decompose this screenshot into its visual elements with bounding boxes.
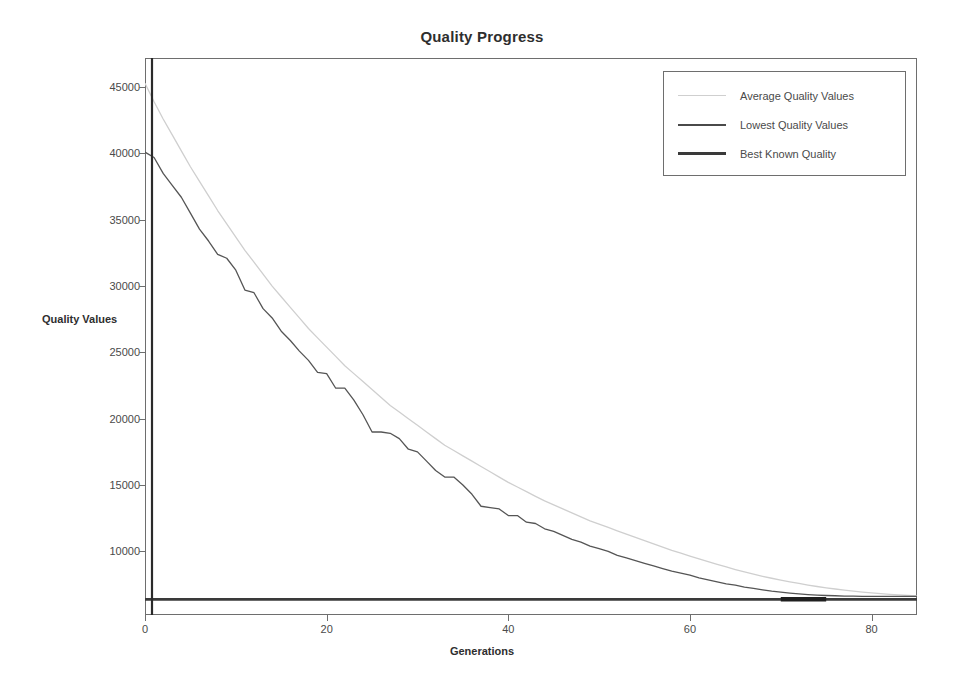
legend-swatch-best-known <box>678 152 726 155</box>
x-tick-mark <box>690 615 691 621</box>
x-tick-mark <box>145 615 146 621</box>
chart-figure: Quality Progress Quality Values Generati… <box>0 0 964 682</box>
y-tick-mark <box>139 153 145 154</box>
legend-entry-best-known: Best Known Quality <box>664 139 905 168</box>
y-tick-mark <box>139 485 145 486</box>
y-tick-mark <box>139 419 145 420</box>
x-tick-label: 20 <box>297 623 357 635</box>
legend-entry-average: Average Quality Values <box>664 81 905 110</box>
x-tick-label: 0 <box>115 623 175 635</box>
x-tick-mark <box>327 615 328 621</box>
y-tick-mark <box>139 87 145 88</box>
y-tick-mark <box>139 220 145 221</box>
y-tick-mark <box>139 352 145 353</box>
x-tick-label: 40 <box>478 623 538 635</box>
legend-label-average: Average Quality Values <box>740 90 854 102</box>
legend-swatch-lowest <box>678 124 726 126</box>
chart-legend: Average Quality Values Lowest Quality Va… <box>663 71 906 176</box>
legend-label-lowest: Lowest Quality Values <box>740 119 848 131</box>
y-tick-mark <box>139 551 145 552</box>
series-line <box>145 152 917 596</box>
legend-label-best-known: Best Known Quality <box>740 148 836 160</box>
x-tick-mark <box>508 615 509 621</box>
legend-swatch-average <box>678 95 726 96</box>
y-tick-mark <box>139 286 145 287</box>
x-tick-label: 80 <box>842 623 902 635</box>
x-tick-label: 60 <box>660 623 720 635</box>
legend-entry-lowest: Lowest Quality Values <box>664 110 905 139</box>
x-tick-mark <box>872 615 873 621</box>
